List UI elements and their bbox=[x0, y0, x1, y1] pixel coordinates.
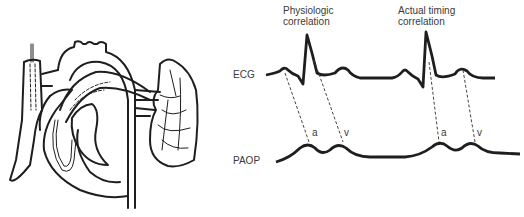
lung bbox=[150, 59, 198, 166]
paop-label: PAOP bbox=[233, 155, 260, 166]
physiologic-correlation-label: Physiologic correlation bbox=[283, 5, 334, 27]
vena-cava bbox=[10, 60, 42, 181]
v-wave-label: v bbox=[344, 127, 349, 138]
heart-illustration bbox=[10, 41, 198, 208]
a-wave-label: a bbox=[441, 127, 447, 138]
catheter-dashed bbox=[30, 64, 36, 110]
diagram-canvas bbox=[0, 0, 524, 217]
actual-timing-label: Actual timing correlation bbox=[398, 5, 455, 27]
ecg-trace bbox=[266, 32, 495, 87]
a-wave-label: a bbox=[312, 127, 318, 138]
paop-trace bbox=[276, 143, 520, 162]
v-wave-label: v bbox=[477, 127, 482, 138]
ecg-label: ECG bbox=[233, 69, 255, 80]
